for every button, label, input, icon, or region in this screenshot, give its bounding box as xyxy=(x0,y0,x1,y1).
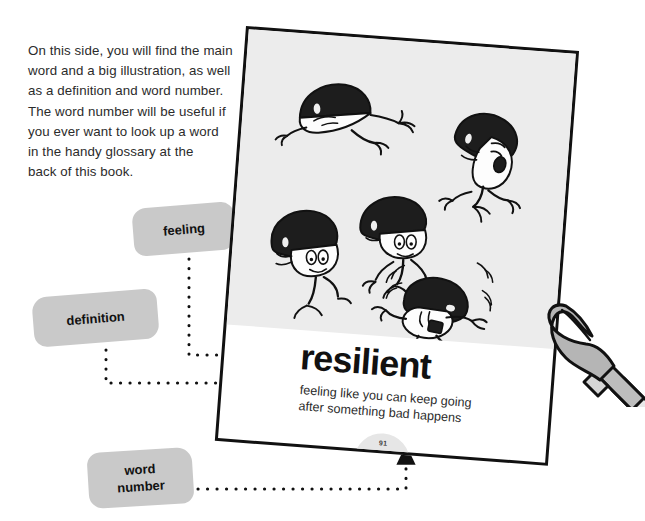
callout-feeling[interactable]: feeling xyxy=(131,201,236,257)
connector-word-number xyxy=(198,463,406,489)
callout-feeling-label: feeling xyxy=(162,219,205,239)
callout-word-number-label: word number xyxy=(116,460,166,497)
definition-text: feeling like you can keep going after so… xyxy=(298,382,515,431)
page-number-value: 91 xyxy=(379,439,388,447)
illustration-characters xyxy=(227,29,576,349)
callout-definition-label: definition xyxy=(66,307,126,329)
hand-pencil-icon xyxy=(540,272,645,407)
book-page-card[interactable]: resilient feeling like you can keep goin… xyxy=(215,26,579,466)
callout-definition[interactable]: definition xyxy=(31,288,160,348)
main-word: resilient xyxy=(299,336,433,388)
callout-word-number[interactable]: word number xyxy=(86,447,194,509)
diagram-stage: On this side, you will find the main wor… xyxy=(0,0,645,521)
illustration-band xyxy=(227,29,576,349)
